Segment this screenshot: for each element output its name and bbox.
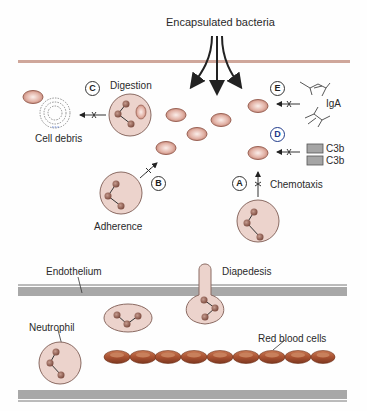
label-neutrophil: Neutrophil bbox=[29, 323, 75, 333]
label-c3b-2: C3b bbox=[326, 156, 344, 166]
label-cell-debris: Cell debris bbox=[35, 134, 82, 144]
title-encapsulated-bacteria: Encapsulated bacteria bbox=[166, 17, 275, 28]
cell-debris-icon bbox=[40, 98, 70, 128]
c3b-box-1 bbox=[307, 144, 323, 153]
label-red-blood-cells: Red blood cells bbox=[258, 334, 326, 344]
label-c3b-1: C3b bbox=[326, 144, 344, 154]
step-a-marker: A bbox=[232, 176, 247, 191]
label-endothelium: Endothelium bbox=[46, 267, 102, 277]
label-chemotaxis: Chemotaxis bbox=[270, 180, 323, 190]
step-b-marker: B bbox=[151, 176, 166, 191]
bacteria-entry-arrows bbox=[192, 36, 240, 92]
digesting-phagocyte bbox=[109, 94, 151, 136]
step-d-marker: D bbox=[270, 127, 285, 142]
step-e-marker: E bbox=[270, 81, 285, 96]
step-c-marker: C bbox=[85, 81, 100, 96]
diagram-graphics bbox=[0, 0, 367, 411]
tissue-surface bbox=[18, 60, 350, 63]
c3b-box-2 bbox=[307, 156, 323, 165]
neutrophil bbox=[39, 330, 81, 384]
phagocytosis-diagram: Encapsulated bacteria Digestion Cell deb… bbox=[0, 0, 367, 411]
rolling-neutrophil bbox=[104, 304, 152, 332]
label-adherence: Adherence bbox=[94, 222, 142, 232]
label-diapedesis: Diapedesis bbox=[222, 267, 271, 277]
label-digestion: Digestion bbox=[110, 81, 152, 91]
label-iga: IgA bbox=[326, 99, 341, 109]
adherence-phagocyte bbox=[100, 172, 142, 214]
chemotaxis-phagocyte bbox=[237, 200, 279, 242]
